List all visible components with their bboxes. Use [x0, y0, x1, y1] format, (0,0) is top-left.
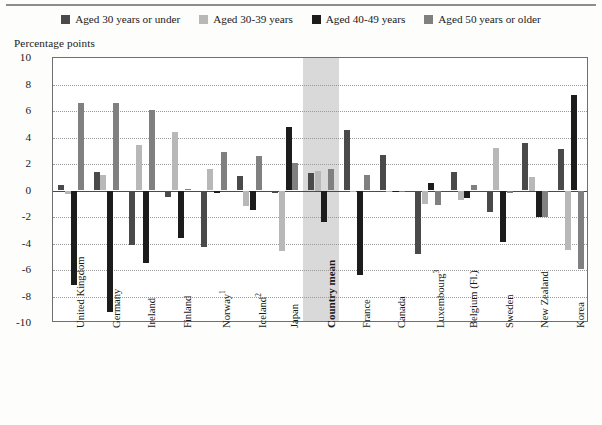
bar[interactable]	[386, 191, 392, 192]
chart-figure: Aged 30 years or underAged 30-39 yearsAg…	[0, 0, 602, 425]
bar[interactable]	[558, 149, 564, 190]
bar[interactable]	[487, 191, 493, 212]
bar[interactable]	[471, 185, 477, 190]
bar[interactable]	[221, 152, 227, 190]
x-axis-label-12: Sweden	[504, 294, 515, 328]
legend-item-label: Aged 50 years or older	[438, 14, 541, 25]
bar-group	[375, 58, 411, 321]
bar[interactable]	[428, 183, 434, 191]
legend-item-label: Aged 30 years or under	[75, 14, 180, 25]
bar[interactable]	[207, 169, 213, 190]
bar-group	[482, 58, 518, 321]
legend-swatch-aged-50-or-older-icon	[424, 15, 433, 24]
bar-group	[232, 58, 268, 321]
top-divider	[6, 4, 596, 6]
bar-group	[339, 58, 375, 321]
bar[interactable]	[237, 176, 243, 191]
bar[interactable]	[542, 191, 548, 218]
y-axis-tick--2: -2	[0, 211, 31, 222]
y-axis-tick-2: 2	[0, 158, 31, 169]
x-label-footnote-marker: 2	[254, 293, 263, 297]
x-axis-label-13: New Zealand	[539, 271, 550, 328]
bar-group	[267, 58, 303, 321]
x-axis-label-4: Norway1	[218, 290, 232, 328]
bar[interactable]	[415, 191, 421, 255]
bar[interactable]	[172, 132, 178, 190]
bar[interactable]	[136, 145, 142, 190]
y-axis-tick-8: 8	[0, 79, 31, 90]
bar[interactable]	[344, 130, 350, 191]
bar[interactable]	[201, 191, 207, 248]
bar[interactable]	[113, 103, 119, 190]
bar[interactable]	[214, 191, 220, 194]
bar[interactable]	[507, 191, 513, 194]
y-axis-tick-4: 4	[0, 132, 31, 143]
y-axis-tick-6: 6	[0, 105, 31, 116]
bar[interactable]	[458, 191, 464, 200]
x-axis-label-0: United Kingdom	[75, 256, 86, 328]
bar[interactable]	[129, 191, 135, 245]
bar[interactable]	[364, 175, 370, 191]
bar[interactable]	[78, 103, 84, 190]
bar-group	[553, 58, 589, 321]
bar[interactable]	[143, 191, 149, 264]
legend-swatch-aged-30-39-icon	[199, 15, 208, 24]
bar[interactable]	[243, 191, 249, 207]
y-axis-tick-10: 10	[0, 52, 31, 63]
bar[interactable]	[380, 155, 386, 191]
legend-item-0[interactable]: Aged 30 years or under	[61, 14, 180, 25]
legend-item-label: Aged 40-49 years	[326, 14, 406, 25]
bar[interactable]	[250, 191, 256, 211]
bar[interactable]	[493, 148, 499, 190]
bar[interactable]	[565, 191, 571, 251]
x-label-footnote-marker: 1	[218, 290, 227, 294]
bar[interactable]	[256, 156, 262, 190]
bar[interactable]	[571, 95, 577, 190]
bar[interactable]	[178, 191, 184, 239]
x-axis-label-2: Ireland	[146, 298, 157, 328]
bar[interactable]	[536, 191, 542, 218]
bar[interactable]	[292, 163, 298, 191]
chart-legend: Aged 30 years or underAged 30-39 yearsAg…	[0, 14, 602, 25]
bar[interactable]	[422, 191, 428, 204]
bar[interactable]	[272, 191, 278, 194]
bar[interactable]	[286, 127, 292, 191]
legend-item-1[interactable]: Aged 30-39 years	[199, 14, 293, 25]
bar[interactable]	[393, 191, 399, 192]
bar[interactable]	[350, 191, 356, 192]
y-axis-tick--4: -4	[0, 238, 31, 249]
bar[interactable]	[578, 191, 584, 269]
bar[interactable]	[65, 191, 71, 195]
plot-area: 1086420-2-4-6-8-10	[52, 57, 588, 322]
bar[interactable]	[464, 191, 470, 199]
bar[interactable]	[279, 191, 285, 252]
bar[interactable]	[529, 177, 535, 190]
bar[interactable]	[328, 169, 334, 190]
x-axis-label-8: France	[361, 299, 372, 328]
legend-item-2[interactable]: Aged 40-49 years	[312, 14, 406, 25]
y-axis-title: Percentage points	[14, 37, 95, 49]
bar-group	[196, 58, 232, 321]
bar[interactable]	[321, 191, 327, 223]
bar[interactable]	[100, 175, 106, 191]
bar[interactable]	[500, 191, 506, 243]
bar[interactable]	[357, 191, 363, 276]
bar[interactable]	[435, 191, 441, 206]
x-axis-label-9: Canada	[396, 296, 407, 328]
y-axis-tick--10: -10	[0, 317, 31, 328]
bar[interactable]	[165, 191, 171, 198]
bar[interactable]	[149, 110, 155, 191]
bar[interactable]	[185, 189, 191, 190]
bar[interactable]	[399, 191, 405, 192]
bar[interactable]	[94, 172, 100, 191]
x-axis-label-11: Belgium (Fl.)	[468, 270, 479, 328]
legend-swatch-aged-30-or-under-icon	[61, 15, 70, 24]
bar[interactable]	[315, 171, 321, 191]
y-axis-tick--6: -6	[0, 264, 31, 275]
bar[interactable]	[308, 173, 314, 190]
bar[interactable]	[58, 185, 64, 190]
y-axis-tick--8: -8	[0, 291, 31, 302]
bar[interactable]	[522, 143, 528, 191]
bar[interactable]	[451, 172, 457, 191]
legend-item-3[interactable]: Aged 50 years or older	[424, 14, 541, 25]
